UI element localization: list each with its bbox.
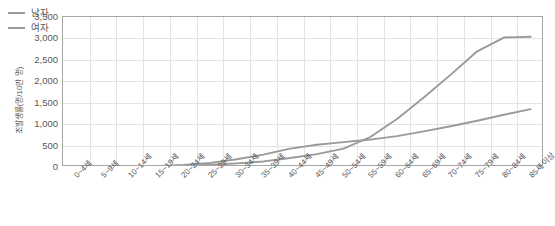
x-tick-label: 0~4세 bbox=[71, 157, 93, 179]
x-tick-label: 60~64세 bbox=[392, 151, 421, 180]
x-tick-label: 85세 이상 bbox=[526, 149, 555, 179]
incidence-rate-line-chart: 조발생률(명/10만 명) 05001,0001,5002,0002,5003,… bbox=[0, 0, 555, 226]
x-tick-label: 80~84세 bbox=[499, 151, 528, 180]
x-tick-label: 75~79세 bbox=[472, 151, 501, 180]
x-tick-label: 70~74세 bbox=[445, 151, 474, 180]
x-tick-label: 35~39세 bbox=[258, 151, 287, 180]
x-tick-label: 20~24세 bbox=[178, 151, 207, 180]
x-tick-label: 45~49세 bbox=[312, 151, 341, 180]
x-tick-label: 10~14세 bbox=[125, 151, 154, 180]
x-tick-label: 5~9세 bbox=[98, 157, 120, 179]
x-tick-label: 30~34세 bbox=[232, 151, 261, 180]
x-tick-label: 25~29세 bbox=[205, 151, 234, 180]
x-tick-label: 40~44세 bbox=[285, 151, 314, 180]
x-tick-label: 15~19세 bbox=[152, 151, 181, 180]
x-tick-label: 50~54세 bbox=[339, 151, 368, 180]
x-tick-label: 65~69세 bbox=[419, 151, 448, 180]
x-axis-tick-labels: 0~4세5~9세10~14세15~19세20~24세25~29세30~34세35… bbox=[0, 0, 555, 226]
x-tick-label: 55~59세 bbox=[365, 151, 394, 180]
